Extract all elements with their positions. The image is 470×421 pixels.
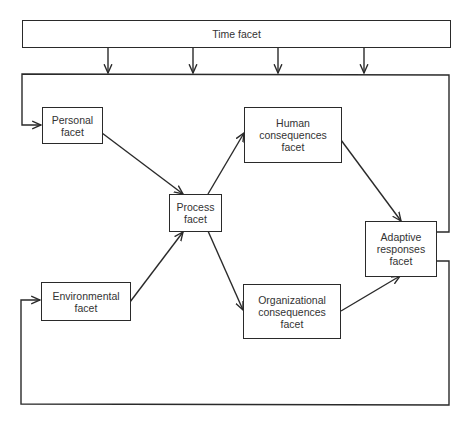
environmental-facet-label: Environmental facet xyxy=(52,290,119,314)
adaptive-responses-facet-box: Adaptive responses facet xyxy=(365,221,437,277)
arrow-human-to-adaptive xyxy=(341,140,401,221)
arrow-personal-to-process xyxy=(102,133,183,194)
personal-facet-label: Personal facet xyxy=(52,114,93,138)
time-facet-label: Time facet xyxy=(212,28,261,40)
connector-lines xyxy=(0,0,470,421)
arrow-process-to-organizational xyxy=(208,231,243,310)
process-facet-label: Process facet xyxy=(177,201,215,225)
environmental-facet-box: Environmental facet xyxy=(41,282,131,321)
adaptive-responses-facet-label: Adaptive responses facet xyxy=(377,231,425,267)
human-consequences-facet-box: Human consequences facet xyxy=(244,107,342,163)
organizational-consequences-facet-box: Organizational consequences facet xyxy=(243,284,341,339)
arrow-organizational-to-adaptive xyxy=(341,276,400,311)
organizational-consequences-facet-label: Organizational consequences facet xyxy=(258,294,326,330)
time-facet-box: Time facet xyxy=(22,20,451,48)
human-consequences-facet-label: Human consequences facet xyxy=(259,117,327,153)
process-facet-box: Process facet xyxy=(169,194,222,232)
arrow-process-to-human xyxy=(208,133,244,194)
top-feedback-loop xyxy=(22,74,449,232)
personal-facet-box: Personal facet xyxy=(42,107,103,144)
arrow-environmental-to-process xyxy=(130,232,183,302)
